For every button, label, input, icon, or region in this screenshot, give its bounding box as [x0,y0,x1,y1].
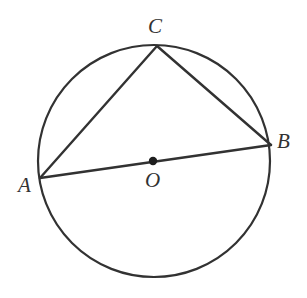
geometry-figure: A B C O [0,0,307,298]
vertex-label-a: A [18,175,31,196]
vertex-label-b: B [277,131,290,152]
vertex-label-c: C [148,16,162,37]
center-label-o: O [145,170,160,191]
geometry-canvas [0,0,307,298]
center-point-O [149,157,157,165]
chord-AC [40,46,157,178]
